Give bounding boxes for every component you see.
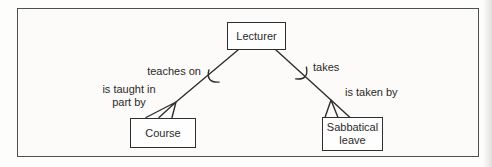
entity-sabbatical-leave: Sabbatical leave [322,117,383,151]
relationship-label-is-taught-in-line1: is taught in [95,83,163,96]
entity-course-label: Course [145,127,180,140]
entity-sabbatical-label-line1: Sabbatical [327,121,378,134]
crows-foot-sabbatical-icon [325,100,350,118]
relationship-label-is-taught-in-line2: part by [95,96,163,109]
relationship-label-teaches-on: teaches on [141,65,201,78]
entity-lecturer: Lecturer [227,22,286,50]
entity-lecturer-label: Lecturer [236,30,276,43]
relationship-line-right [276,50,331,100]
relationship-label-takes: takes [313,61,353,74]
entity-sabbatical-label-line2: leave [339,134,365,147]
page-edge-shading [483,0,492,167]
relationship-label-is-taught-in-part-by: is taught in part by [95,83,163,109]
relationship-label-is-taken-by: is taken by [345,86,409,99]
exclusion-arc-left-icon [208,70,219,82]
diagram-page: Lecturer Course Sabbatical leave teaches… [0,0,492,167]
entity-course: Course [130,118,196,148]
